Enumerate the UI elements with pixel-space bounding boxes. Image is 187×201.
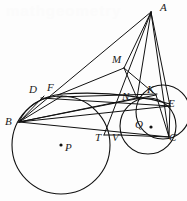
point-label-Q: Q: [135, 119, 143, 130]
point-label-K: K: [147, 84, 154, 95]
point-label-N: N: [122, 91, 129, 102]
point-label-C: C: [169, 132, 176, 143]
segment-A-B: [19, 12, 151, 122]
segment-A-C: [151, 12, 169, 137]
geometry-figure: mathgeometry AMDFNKEBQTVCP: [0, 0, 187, 201]
center-dot-Q: [149, 125, 152, 128]
segments-layer: [19, 12, 170, 137]
point-label-T: T: [95, 132, 101, 143]
geometry-canvas: [0, 0, 187, 201]
point-label-P: P: [65, 142, 72, 153]
point-label-E: E: [168, 98, 175, 109]
point-label-A: A: [160, 2, 167, 13]
segment-A-M: [124, 12, 151, 68]
point-label-B: B: [5, 116, 12, 127]
segment-B-C: [19, 122, 169, 137]
point-label-F: F: [47, 82, 54, 93]
point-label-D: D: [29, 84, 37, 95]
point-label-M: M: [112, 54, 121, 65]
point-label-V: V: [112, 132, 119, 143]
center-dot-P: [59, 143, 62, 146]
